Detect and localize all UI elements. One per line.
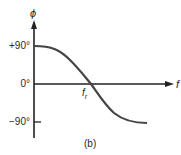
fr-subscript: r	[85, 93, 87, 100]
y-tick-label-0: 0°	[0, 79, 30, 89]
phase-response-figure: ϕ f +90° 0° −90° fr (b)	[0, 0, 181, 155]
y-axis-arrow-icon	[31, 20, 37, 29]
resonant-frequency-label: fr	[82, 88, 87, 102]
y-axis-label: ϕ	[30, 8, 36, 18]
x-axis-arrow-icon	[165, 81, 174, 87]
x-axis-label: f	[176, 79, 179, 89]
y-tick-label-plus-90: +90°	[0, 41, 30, 51]
y-tick-label-minus-90: −90°	[0, 117, 30, 127]
figure-caption: (b)	[84, 139, 96, 149]
